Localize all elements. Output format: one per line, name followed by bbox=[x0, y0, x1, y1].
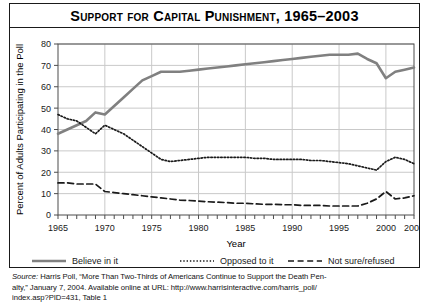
y-tick-label: 0 bbox=[46, 210, 51, 220]
y-tick-label: 80 bbox=[41, 39, 51, 49]
y-tick-label: 30 bbox=[41, 146, 51, 156]
page-title: Support for Capital Punishment, 1965–200… bbox=[70, 8, 358, 24]
line-chart: 0102030405060708019651970197519801985199… bbox=[10, 29, 419, 267]
source-line-1-text: Harris Poll, “More Than Two-Thirds of Am… bbox=[38, 272, 326, 281]
x-tick-label: 1970 bbox=[95, 223, 115, 233]
source-line-2: alty,” January 7, 2004. Available online… bbox=[12, 283, 420, 294]
y-axis-label: Percent of Adults Participating in the P… bbox=[14, 44, 25, 215]
x-axis-label: Year bbox=[226, 238, 245, 249]
legend-label-1[interactable]: Believe in it bbox=[72, 256, 119, 266]
x-tick-label: 1985 bbox=[235, 223, 255, 233]
source-line-3: index.asp?PID=431, Table 1 bbox=[12, 293, 420, 304]
source-note: Source: Harris Poll, “More Than Two-Thir… bbox=[12, 272, 420, 304]
x-tick-label: 1995 bbox=[329, 223, 349, 233]
y-tick-label: 20 bbox=[41, 168, 51, 178]
legend-label-2[interactable]: Opposed to it bbox=[220, 256, 274, 266]
capital-punishment-figure: Support for Capital Punishment, 1965–200… bbox=[0, 0, 429, 308]
x-tick-label: 1975 bbox=[142, 223, 162, 233]
x-tick-label: 2003 bbox=[404, 223, 419, 233]
y-tick-label: 10 bbox=[41, 189, 51, 199]
figure-title-bar: Support for Capital Punishment, 1965–200… bbox=[10, 4, 419, 28]
source-label: Source: bbox=[12, 272, 38, 281]
y-tick-label: 50 bbox=[41, 104, 51, 114]
x-tick-label: 2000 bbox=[376, 223, 396, 233]
plot-area: 0102030405060708019651970197519801985199… bbox=[10, 29, 419, 267]
y-tick-label: 70 bbox=[41, 61, 51, 71]
y-tick-label: 40 bbox=[41, 125, 51, 135]
x-tick-label: 1965 bbox=[48, 223, 68, 233]
y-tick-label: 60 bbox=[41, 82, 51, 92]
series-line-2 bbox=[58, 115, 414, 171]
x-tick-label: 1990 bbox=[282, 223, 302, 233]
series-line-3 bbox=[58, 183, 414, 206]
source-line-1: Source: Harris Poll, “More Than Two-Thir… bbox=[12, 272, 420, 283]
x-tick-label: 1980 bbox=[189, 223, 209, 233]
legend-label-3[interactable]: Not sure/refused bbox=[328, 256, 395, 266]
